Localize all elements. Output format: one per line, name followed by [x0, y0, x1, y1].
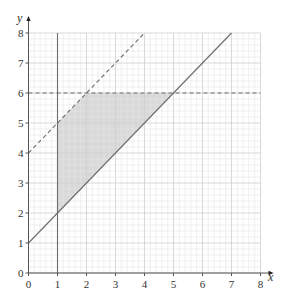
- tick-labels: 012345678012345678: [18, 27, 264, 290]
- x-tick-label: 0: [26, 278, 32, 290]
- y-tick-label: 0: [18, 267, 24, 279]
- y-tick-label: 4: [18, 147, 24, 159]
- y-tick-label: 1: [18, 237, 24, 249]
- x-tick-label: 5: [171, 278, 177, 290]
- y-tick-label: 5: [18, 117, 24, 129]
- x-tick-label: 8: [258, 278, 264, 290]
- y-axis-label: y: [16, 11, 23, 25]
- y-tick-label: 2: [18, 207, 24, 219]
- y-axis-arrow-icon: [26, 16, 30, 21]
- x-tick-label: 7: [229, 278, 235, 290]
- y-tick-label: 3: [18, 177, 24, 189]
- x-tick-label: 3: [113, 278, 119, 290]
- y-tick-label: 8: [18, 27, 24, 39]
- x-tick-label: 6: [200, 278, 206, 290]
- y-tick-label: 6: [18, 87, 24, 99]
- y-tick-label: 7: [18, 57, 24, 69]
- inequality-graph: 012345678012345678 x y: [0, 0, 285, 302]
- x-tick-label: 2: [84, 278, 90, 290]
- x-tick-label: 1: [55, 278, 61, 290]
- x-axis-label: x: [267, 270, 274, 284]
- x-tick-label: 4: [142, 278, 148, 290]
